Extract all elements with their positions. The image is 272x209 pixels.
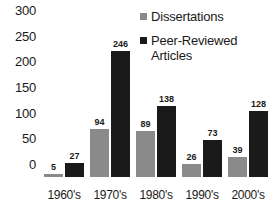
bar[interactable] (182, 164, 201, 177)
bar-value-label: 246 (113, 40, 128, 49)
bar-value-label: 39 (232, 146, 242, 155)
y-axis: 050100150200250300 (0, 0, 40, 209)
legend-label: Dissertations (151, 9, 224, 24)
legend-entry[interactable]: Dissertations (140, 9, 268, 24)
bar-value-label: 94 (94, 118, 104, 127)
x-axis-category-label: 1970's (87, 189, 133, 201)
y-axis-tick-label: 0 (29, 158, 36, 171)
bar-value-label: 26 (186, 153, 196, 162)
y-axis-tick-label: 150 (15, 81, 36, 94)
bar-value-label: 73 (207, 129, 217, 138)
x-axis-category-label: 2000's (225, 189, 271, 201)
bar[interactable] (111, 51, 130, 177)
x-axis-category-label: 1990's (179, 189, 225, 201)
bar[interactable] (249, 111, 268, 177)
bar[interactable] (228, 157, 247, 177)
bar[interactable] (136, 131, 155, 177)
bar[interactable] (157, 106, 176, 177)
y-axis-tick-label: 50 (22, 132, 36, 145)
bar[interactable] (65, 163, 84, 177)
legend-entry[interactable]: Peer-Reviewed Articles (140, 33, 268, 63)
bar-group: 94246 (90, 23, 130, 177)
chart-legend: DissertationsPeer-Reviewed Articles (140, 9, 268, 72)
bar[interactable] (44, 174, 63, 177)
legend-swatch-icon (140, 37, 147, 44)
bar[interactable] (203, 140, 222, 177)
x-axis-category-label: 1980's (133, 189, 179, 201)
y-axis-tick-label: 200 (15, 55, 36, 68)
bar-value-label: 138 (159, 95, 174, 104)
bar-value-label: 5 (51, 163, 56, 172)
legend-swatch-icon (140, 13, 147, 20)
x-axis-category-label: 1960's (41, 189, 87, 201)
bar-chart-figure: 050100150200250300 5271960's942461970's8… (0, 0, 272, 209)
bar-group: 527 (44, 23, 84, 177)
bar-value-label: 89 (140, 120, 150, 129)
y-axis-tick-label: 300 (15, 4, 36, 17)
bar-value-label: 128 (251, 100, 266, 109)
bar-value-label: 27 (69, 152, 79, 161)
y-axis-tick-label: 250 (15, 29, 36, 42)
legend-label: Peer-Reviewed Articles (151, 33, 268, 63)
y-axis-tick-label: 100 (15, 106, 36, 119)
bar[interactable] (90, 129, 109, 177)
